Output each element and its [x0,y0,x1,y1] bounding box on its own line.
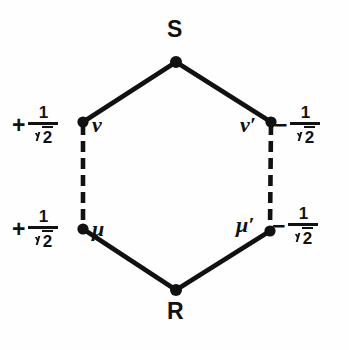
fraction-numerator: 1 [297,205,310,223]
coefficient-sign: + [12,114,25,137]
vertex-dot-mu [77,223,88,234]
coefficient-sign: − [274,114,287,137]
radical-icon: 2 [34,126,53,146]
coefficient-sign: + [12,218,25,241]
fraction-denominator: 2 [294,125,317,146]
vertex-dot-nu [77,116,88,127]
vertex-label-nu: ν [92,114,102,136]
fraction: 1 2 [28,104,58,146]
fraction-numerator: 1 [37,104,50,122]
vertex-label-mu-prime: μ′ [236,214,254,236]
fraction-numerator: 1 [37,208,50,226]
fraction: 1 2 [290,104,320,146]
coefficient-lower-right: − 1 2 [272,205,318,247]
vertex-label-mu: μ [92,218,104,240]
coefficient-sign: − [272,215,285,238]
coefficient-upper-right: − 1 2 [274,104,320,146]
vertex-label-R: R [167,300,184,323]
radical-icon: 2 [34,230,53,250]
fraction-numerator: 1 [299,104,312,122]
edge-mu-prime-R [176,231,270,290]
coefficient-upper-left: + 1 2 [12,104,58,146]
fraction-denominator: 2 [292,226,315,247]
fraction-denominator: 2 [32,125,55,146]
radical-icon: 2 [294,227,313,247]
vertex-label-S: S [167,18,182,41]
fraction: 1 2 [28,208,58,250]
fraction: 1 2 [288,205,318,247]
edge-nu-prime-mu-prime-dashed [270,124,271,229]
hexagon-diagram: S R ν ν′ μ μ′ + 1 2 + 1 2 [0,0,349,350]
radical-icon: 2 [296,126,315,146]
fraction-denominator: 2 [32,229,55,250]
vertex-label-nu-prime: ν′ [240,114,256,136]
coefficient-lower-left: + 1 2 [12,208,58,250]
vertex-dot-S [170,56,182,68]
vertex-dot-R [170,284,182,296]
edge-S-nu-prime [176,62,271,122]
